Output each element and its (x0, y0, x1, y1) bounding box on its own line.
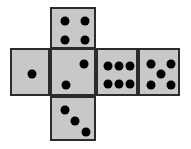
pip-dot (147, 60, 156, 69)
pip-dot (104, 62, 113, 71)
pip-dot (115, 80, 124, 89)
pip-dot (126, 80, 135, 89)
pip-dot (104, 80, 113, 89)
far-right-face (138, 48, 180, 96)
pip-dot (167, 60, 176, 69)
bottom-face (50, 96, 96, 141)
pip-dot (80, 60, 89, 69)
pip-dot (28, 70, 37, 79)
pip-dot (157, 70, 166, 79)
center-face (50, 48, 96, 96)
dice-cube-net (0, 0, 191, 149)
pip-dot (126, 62, 135, 71)
pip-dot (61, 17, 70, 26)
pip-dot (115, 62, 124, 71)
right-face (96, 48, 138, 96)
pip-dot (61, 36, 70, 45)
pip-dot (71, 117, 80, 126)
pip-dot (147, 81, 156, 90)
pip-dot (82, 128, 91, 137)
pip-dot (62, 81, 71, 90)
pip-dot (61, 106, 70, 115)
top-face (50, 7, 96, 49)
pip-dot (81, 17, 90, 26)
pip-dot (167, 81, 176, 90)
left-face (10, 48, 50, 96)
pip-dot (81, 36, 90, 45)
